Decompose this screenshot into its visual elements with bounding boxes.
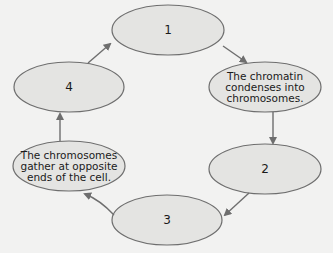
node-3-label: 3 <box>163 215 171 226</box>
node-1: 1 <box>112 5 224 55</box>
cell-cycle-diagram: 1 The chromatin condenses into chromosom… <box>0 0 333 253</box>
node-chromosomes-gather: The chromosomes gather at opposite ends … <box>13 141 125 191</box>
node-2-label: 2 <box>261 164 269 175</box>
node-4-label: 4 <box>65 82 73 93</box>
arrow-1-to-chromatin <box>223 46 246 62</box>
node-chromatin: The chromatin condenses into chromosomes… <box>209 62 321 112</box>
node-2: 2 <box>209 144 321 194</box>
arrow-4-to-1 <box>88 44 110 63</box>
node-chromosomes-gather-label: The chromosomes gather at opposite ends … <box>20 150 117 183</box>
arrow-2-to-3 <box>225 193 249 215</box>
node-3: 3 <box>112 195 222 245</box>
node-chromatin-label: The chromatin condenses into chromosomes… <box>225 71 304 104</box>
node-1-label: 1 <box>164 25 172 36</box>
node-4: 4 <box>14 62 124 112</box>
arrow-3-to-chromosomes-gather <box>85 194 114 215</box>
